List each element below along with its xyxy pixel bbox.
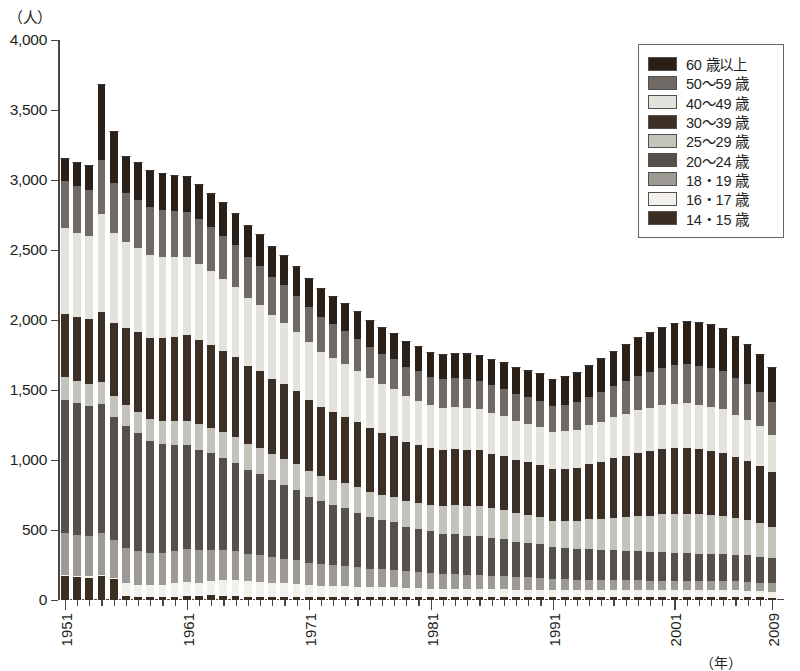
bar-segment: [170, 445, 180, 551]
bar-segment: [340, 364, 350, 417]
bar-segment: [328, 412, 338, 480]
bar-segment: [267, 379, 277, 455]
bar-segment: [182, 257, 192, 335]
bar-segment: [609, 417, 619, 458]
bar-segment: [487, 508, 497, 538]
bar-segment: [84, 319, 94, 385]
bar-segment: [389, 497, 399, 522]
bar-segment: [499, 597, 509, 600]
bar-segment: [231, 596, 241, 600]
bar-segment: [633, 376, 643, 411]
bar-segment: [682, 448, 692, 514]
bar-segment: [316, 501, 326, 564]
bar-segment: [145, 597, 155, 601]
bar-segment: [121, 596, 131, 600]
legend: 60 歳以上50～59 歳40～49 歳30～39 歳25～29 歳20～24 …: [638, 44, 784, 238]
bar-segment: [279, 285, 289, 323]
bar-segment: [584, 464, 594, 519]
bar-segment: [743, 344, 753, 384]
bar-segment: [340, 303, 350, 331]
bar-segment: [377, 520, 387, 569]
x-tick-mark: [284, 600, 285, 606]
bar-segment: [487, 385, 497, 413]
bar-segment: [706, 368, 716, 407]
bar-segment: [145, 585, 155, 596]
bar-segment: [426, 352, 436, 377]
bar-segment: [84, 536, 94, 576]
bar-segment: [548, 406, 558, 432]
bar-segment: [365, 492, 375, 517]
bar-segment: [401, 527, 411, 572]
bar-segment: [194, 596, 204, 600]
bar-segment: [450, 505, 460, 534]
bar-segment: [182, 596, 192, 600]
bar-segment: [657, 581, 667, 591]
bar-stack: [755, 354, 765, 600]
bar-segment: [158, 553, 168, 585]
bar-segment: [718, 409, 728, 452]
y-tick-label: 1,500: [10, 381, 47, 399]
bar-segment: [401, 341, 411, 367]
bar-segment: [292, 597, 302, 601]
bar-segment: [158, 257, 168, 338]
bar-segment: [145, 207, 155, 255]
bar-segment: [548, 432, 558, 469]
bar-segment: [145, 170, 155, 207]
bar-segment: [548, 579, 558, 590]
bar-segment: [743, 520, 753, 555]
bar-segment: [475, 355, 485, 381]
bar-segment: [414, 346, 424, 371]
x-tick-mark: [650, 600, 651, 606]
bar-segment: [645, 372, 655, 408]
bar-segment: [426, 573, 436, 588]
bar-segment: [194, 424, 204, 449]
bar-segment: [596, 550, 606, 580]
bar-segment: [255, 234, 265, 266]
bar-segment: [218, 580, 228, 595]
bar-segment: [365, 517, 375, 569]
bar-segment: [353, 422, 363, 487]
x-tick-mark: [577, 600, 578, 606]
bar-segment: [292, 266, 302, 296]
bar-segment: [414, 445, 424, 503]
bar-segment: [450, 574, 460, 589]
legend-item: 40～49 歳: [648, 93, 775, 112]
bar-stack: [414, 346, 424, 600]
bar-segment: [133, 200, 143, 248]
bar-segment: [72, 403, 82, 535]
bar-segment: [609, 386, 619, 418]
bar-segment: [499, 589, 509, 597]
bar-segment: [621, 517, 631, 551]
bar-segment: [97, 84, 107, 160]
bar-segment: [158, 597, 168, 601]
bar-segment: [328, 505, 338, 565]
bar-segment: [243, 366, 253, 444]
bar-segment: [121, 193, 131, 242]
bar-segment: [657, 368, 667, 405]
x-tick-mark: [735, 600, 736, 606]
bar-segment: [401, 571, 411, 588]
bar-segment: [279, 559, 289, 584]
bar-stack: [170, 175, 180, 600]
bar-segment: [353, 513, 363, 568]
bar-segment: [426, 597, 436, 600]
legend-label: 30～39 歳: [686, 111, 749, 132]
bar-segment: [499, 510, 509, 539]
bar-segment: [401, 588, 411, 597]
legend-swatch: [648, 95, 677, 109]
bar-segment: [548, 590, 558, 597]
bar-segment: [450, 449, 460, 505]
bar-segment: [206, 550, 216, 582]
bar-segment: [609, 580, 619, 591]
bar-stack: [158, 173, 168, 600]
bar-segment: [231, 437, 241, 463]
bar-stack: [133, 162, 143, 600]
bar-segment: [450, 407, 460, 449]
bar-segment: [267, 480, 277, 557]
bar-segment: [316, 476, 326, 501]
bar-segment: [450, 378, 460, 406]
bar-stack: [292, 266, 302, 600]
legend-item: 14・15 歳: [648, 208, 775, 227]
bar-segment: [133, 332, 143, 412]
bar-segment: [267, 246, 277, 277]
